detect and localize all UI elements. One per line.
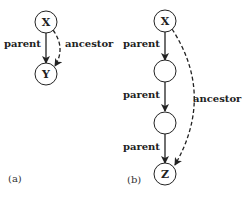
edge-label-ancestor-a: ancestor bbox=[65, 38, 114, 49]
edge-ancestor-b bbox=[172, 29, 194, 165]
edge-label-parent-b2: parent bbox=[123, 89, 160, 100]
edge-label-parent-b1: parent bbox=[123, 38, 160, 49]
node-x-b-label: X bbox=[161, 15, 170, 28]
caption-b: (b) bbox=[127, 174, 141, 185]
diagram-b: X Z parent parent parent ancestor (b) bbox=[123, 10, 242, 185]
diagram-canvas: X Y parent ancestor (a) X Z parent paren… bbox=[0, 0, 246, 197]
node-intermediate-1 bbox=[154, 60, 176, 82]
node-intermediate-2 bbox=[154, 112, 176, 134]
node-z-b-label: Z bbox=[161, 168, 169, 181]
node-y-a-label: Y bbox=[41, 68, 50, 81]
edge-label-parent-a: parent bbox=[4, 38, 41, 49]
edge-label-ancestor-b: ancestor bbox=[193, 93, 242, 104]
node-x-a-label: X bbox=[42, 16, 51, 29]
edge-label-parent-b3: parent bbox=[123, 141, 160, 152]
diagram-a: X Y parent ancestor (a) bbox=[4, 11, 114, 184]
edge-ancestor-a bbox=[53, 30, 60, 66]
caption-a: (a) bbox=[8, 173, 22, 184]
